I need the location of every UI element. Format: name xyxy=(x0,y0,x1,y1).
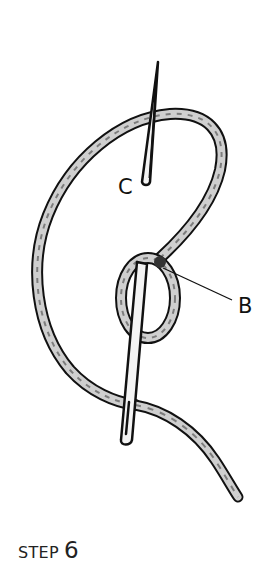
step-word: STEP xyxy=(18,543,59,562)
thread-tail xyxy=(135,405,238,497)
label-b: B xyxy=(238,296,252,317)
step-number: 6 xyxy=(64,537,79,563)
thread-and-needle-drawing xyxy=(0,0,270,570)
label-c: C xyxy=(118,177,133,198)
thread-small-loop xyxy=(121,256,175,338)
step-caption: STEP 6 xyxy=(18,537,79,563)
stitch-illustration: C B xyxy=(0,0,270,570)
